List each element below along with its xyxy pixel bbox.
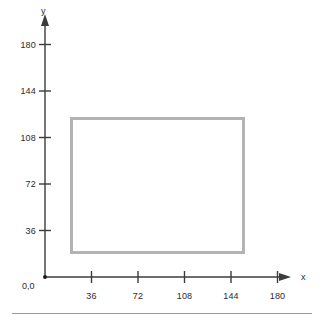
y-tick-label: 108 <box>8 133 36 143</box>
y-tick-label: 144 <box>8 86 36 96</box>
y-tick-label: 36 <box>8 226 36 236</box>
x-tick-label: 108 <box>177 291 193 301</box>
y-axis-label: y <box>41 6 46 16</box>
x-tick-label: 144 <box>223 291 239 301</box>
y-tick-label: 180 <box>8 40 36 50</box>
origin-label: 0,0 <box>22 281 35 291</box>
plot-area: 3672108144180 3672108144180 0,0 y x <box>0 0 326 328</box>
x-tick-label: 72 <box>133 291 143 301</box>
origin-marker <box>43 275 47 279</box>
coordinate-plot-figure: 3672108144180 3672108144180 0,0 y x <box>0 0 326 328</box>
x-axis-label: x <box>301 272 306 282</box>
plot-rectangle <box>70 117 246 254</box>
x-tick-label: 36 <box>86 291 96 301</box>
footer-divider <box>12 313 312 314</box>
y-tick-label: 72 <box>8 179 36 189</box>
x-tick-label: 180 <box>270 291 286 301</box>
x-axis-arrow-icon <box>279 273 291 281</box>
